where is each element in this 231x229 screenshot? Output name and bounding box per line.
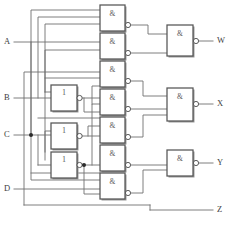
nand-gate-6-label: & [110, 149, 116, 158]
wire-inv2-out-b [88, 126, 100, 136]
output-labels: W X Y Z [217, 35, 225, 214]
inversion-bubble-icon [193, 160, 198, 165]
nand-gate-7-label: & [110, 177, 116, 186]
wire-inv3-out-c [92, 104, 100, 165]
schematic-svg: & & & & [0, 0, 231, 229]
wire-nand7-to-gatey [131, 170, 167, 193]
nand-gate-2[interactable]: & [100, 33, 131, 61]
nand-gate-5[interactable]: & [100, 117, 131, 145]
input-label-a: A [4, 36, 11, 46]
nand-gate-5-label: & [110, 121, 116, 130]
input-labels: A B C D [4, 36, 11, 193]
wire-inv3-out-d [92, 86, 100, 104]
wire-inv2-feed [45, 131, 51, 152]
input-label-d: D [4, 183, 10, 193]
junction-dot-c [29, 133, 33, 137]
inversion-bubble-icon [77, 95, 82, 100]
inversion-bubble-icon [77, 133, 82, 138]
nand-gate-2-label: & [110, 37, 116, 46]
inversion-bubble-icon [125, 50, 130, 55]
wire-nand3-to-gatex [131, 81, 167, 96]
inverter-3-label: 1 [62, 155, 66, 164]
inverter-3[interactable]: 1 [51, 152, 82, 180]
output-label-y: Y [217, 157, 223, 167]
output-gate-x-label: & [177, 92, 183, 101]
nand-gate-3-label: & [110, 65, 116, 74]
nand-gate-1-label: & [110, 9, 116, 18]
output-gate-y[interactable]: & [167, 150, 213, 178]
inverter-1-label: 1 [62, 88, 66, 97]
wire-inv3-out-b [84, 165, 100, 194]
output-gate-w[interactable]: & [167, 25, 213, 58]
nand-gate-7[interactable]: & [100, 173, 131, 201]
inverter-column: 1 1 1 [51, 85, 82, 180]
input-label-c: C [4, 129, 10, 139]
inversion-bubble-icon [125, 106, 130, 111]
inverter-2-label: 1 [62, 126, 66, 135]
inversion-bubble-icon [125, 78, 130, 83]
inverter-1[interactable]: 1 [51, 85, 82, 113]
output-label-x: X [217, 98, 223, 108]
nand-gate-4-label: & [110, 93, 116, 102]
wire-nand1-to-gatew [131, 25, 167, 34]
inversion-bubble-icon [125, 190, 130, 195]
output-label-z: Z [217, 204, 222, 214]
output-gate-w-label: & [177, 29, 183, 38]
inversion-bubble-icon [125, 134, 130, 139]
inversion-bubble-icon [125, 22, 130, 27]
circuit-diagram: & & & & [0, 0, 231, 229]
nand-gate-column: & & & & [100, 5, 131, 201]
output-gate-y-label: & [177, 154, 183, 163]
nand-gate-3[interactable]: & [100, 61, 131, 89]
left-bus-wires [24, 10, 150, 205]
inverter-output-wires [81, 86, 100, 194]
nand-gate-1[interactable]: & [100, 5, 131, 33]
output-gate-x[interactable]: & [167, 88, 213, 123]
junction-dot-inv3-out [82, 163, 86, 167]
input-label-b: B [4, 92, 10, 102]
nand-gate-6[interactable]: & [100, 145, 131, 173]
inversion-bubble-icon [193, 38, 198, 43]
inversion-bubble-icon [125, 162, 130, 167]
output-label-w: W [217, 35, 225, 45]
nand-gate-4[interactable]: & [100, 89, 131, 117]
inverter-2[interactable]: 1 [51, 123, 82, 151]
wire-c-bus-up [31, 10, 100, 135]
interconnect-wires [131, 25, 167, 193]
inversion-bubble-icon [193, 101, 198, 106]
wire-nand5-to-gatex [131, 115, 167, 137]
inversion-bubble-icon [77, 162, 82, 167]
